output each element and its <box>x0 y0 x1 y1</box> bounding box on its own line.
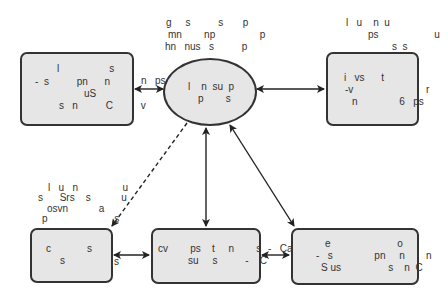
bottomcenter-line-1: cv ps t n s <box>158 243 261 254</box>
edge-center-bottomright <box>230 125 294 226</box>
topright-caption-line-3: s s <box>392 41 408 52</box>
center-caption-line-1: g s s p <box>166 17 248 28</box>
center-line-1: l n su p <box>188 81 234 92</box>
topright-line-1: i vs t <box>344 72 384 83</box>
topleft-line-1: l s <box>57 63 114 74</box>
bottomright-side-label: n <box>426 250 432 261</box>
top-right-node[interactable] <box>326 52 419 126</box>
center-line-2: p s <box>198 93 231 104</box>
bottomright-line-1: e o <box>325 238 403 249</box>
topleft-line-4: s n C v <box>59 100 146 111</box>
topleft-line-2: - s pn n <box>35 76 110 87</box>
center-caption-line-2: mn np p <box>168 29 265 40</box>
edge-center-bottomleft <box>112 123 187 226</box>
topright-side-label: r <box>426 84 429 95</box>
bottomleft-line-1: c s <box>46 243 92 254</box>
bottomcenter-line-2: su s - C <box>188 255 267 266</box>
bottomright-line-2: - s pn n <box>316 250 405 261</box>
topright-caption-line-2: ps u <box>368 29 440 40</box>
topleft-edge-label: n ps <box>141 75 165 86</box>
topleft-line-3: uS <box>84 88 96 99</box>
bottomleft-line-2: s <box>60 255 65 266</box>
topright-line-3: n 6 ps <box>352 96 424 107</box>
topright-caption-line-1: l u n u <box>346 17 390 28</box>
bottomleft-caption-line-2: s Srs s u <box>38 192 127 203</box>
center-node[interactable] <box>163 58 257 126</box>
bottom-left-node[interactable] <box>30 228 113 283</box>
bottomleft-caption-line-4: p s <box>42 213 119 224</box>
center-caption-line-3: hn nus s p <box>165 41 247 52</box>
bottomright-line-3: S us s n C <box>321 262 423 273</box>
bottomcenter-edge-label: - Ca <box>268 243 292 254</box>
bottomleft-edge-label: s <box>114 256 119 267</box>
topright-line-2: -v <box>345 84 353 95</box>
